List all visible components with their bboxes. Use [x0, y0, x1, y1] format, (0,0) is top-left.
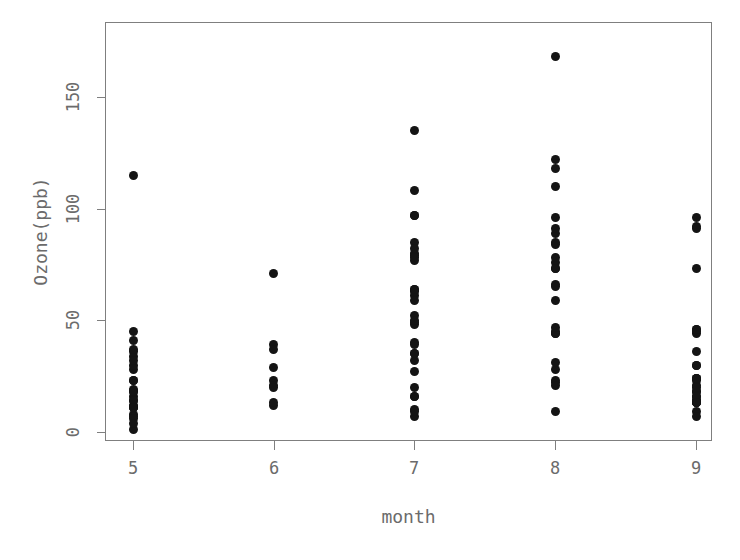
- data-point: [551, 381, 560, 390]
- data-point: [551, 155, 560, 164]
- data-point: [410, 340, 419, 349]
- y-axis-label: Ozone(ppb): [28, 22, 54, 441]
- data-point: [129, 403, 138, 412]
- data-point: [551, 164, 560, 173]
- y-tick-mark: [97, 209, 105, 210]
- data-point: [692, 398, 701, 407]
- data-points-layer: [105, 22, 712, 441]
- data-point: [551, 323, 560, 332]
- y-tick-label: 50: [61, 295, 85, 345]
- data-point: [129, 336, 138, 345]
- y-tick-label: 150: [61, 72, 85, 122]
- x-tick-label: 8: [535, 458, 575, 478]
- x-tick-mark: [133, 441, 134, 450]
- data-point: [129, 345, 138, 354]
- data-point: [692, 412, 701, 421]
- data-point: [551, 407, 560, 416]
- x-tick-label: 5: [113, 458, 153, 478]
- data-point: [129, 387, 138, 396]
- data-point: [129, 171, 138, 180]
- data-point: [551, 52, 560, 61]
- data-point: [551, 213, 560, 222]
- data-point: [129, 356, 138, 365]
- y-tick-label: 0: [61, 407, 85, 457]
- data-point: [692, 325, 701, 334]
- y-tick-label: 100: [61, 184, 85, 234]
- data-point: [551, 253, 560, 262]
- data-point: [269, 363, 278, 372]
- data-point: [410, 367, 419, 376]
- data-point: [410, 316, 419, 325]
- x-tick-mark: [274, 441, 275, 450]
- data-point: [410, 126, 419, 135]
- x-tick-label: 6: [254, 458, 294, 478]
- scatter-plot-figure: 0 50 100 150 5 6 7 8 9 Ozone(ppb) month: [0, 0, 740, 560]
- y-tick-mark: [97, 320, 105, 321]
- data-point: [551, 238, 560, 247]
- data-point: [269, 345, 278, 354]
- data-point: [551, 296, 560, 305]
- data-point: [692, 264, 701, 273]
- data-point: [269, 383, 278, 392]
- data-point: [692, 374, 701, 383]
- data-point: [410, 392, 419, 401]
- x-tick-label: 9: [676, 458, 716, 478]
- data-point: [410, 211, 419, 220]
- x-tick-mark: [696, 441, 697, 450]
- x-tick-mark: [555, 441, 556, 450]
- y-tick-mark: [97, 432, 105, 433]
- x-axis-label: month: [105, 506, 712, 527]
- data-point: [410, 285, 419, 294]
- data-point: [551, 224, 560, 233]
- data-point: [551, 182, 560, 191]
- data-point: [692, 361, 701, 370]
- data-point: [692, 222, 701, 231]
- data-point: [129, 327, 138, 336]
- data-point: [410, 186, 419, 195]
- data-point: [692, 347, 701, 356]
- data-point: [692, 213, 701, 222]
- x-tick-label: 7: [394, 458, 434, 478]
- data-point: [129, 376, 138, 385]
- data-point: [269, 269, 278, 278]
- data-point: [551, 282, 560, 291]
- data-point: [692, 383, 701, 392]
- data-point: [410, 296, 419, 305]
- data-point: [129, 419, 138, 428]
- y-tick-mark: [97, 97, 105, 98]
- x-tick-mark: [414, 441, 415, 450]
- data-point: [551, 264, 560, 273]
- data-point: [410, 383, 419, 392]
- data-point: [551, 358, 560, 367]
